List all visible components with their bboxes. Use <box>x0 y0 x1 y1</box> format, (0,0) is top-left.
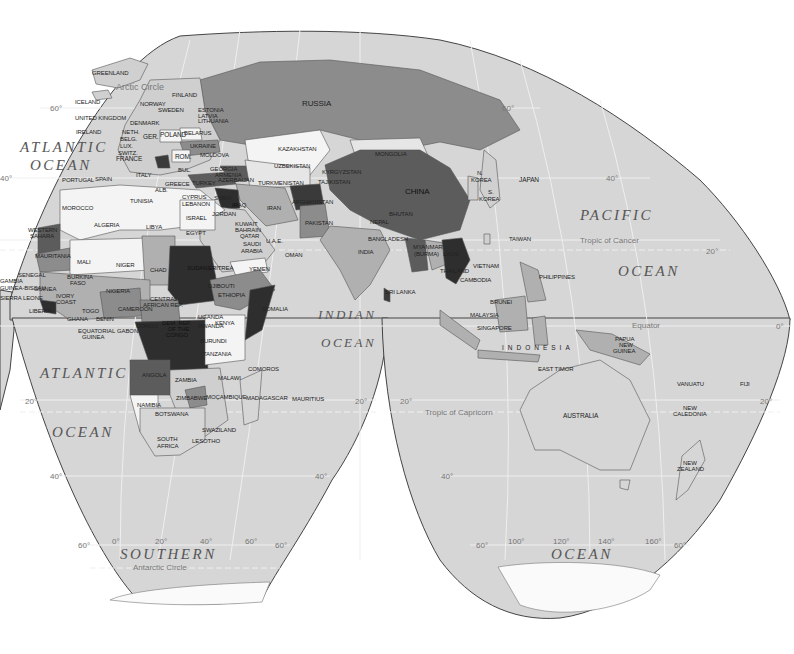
country-label: BELARUS <box>184 130 211 136</box>
country-label: LUX. <box>120 143 133 149</box>
country-label: GABON <box>117 328 138 334</box>
country-label: ANGOLA <box>142 372 166 378</box>
country-label: SWEDEN <box>158 107 184 113</box>
lat-label: 40° <box>606 174 618 183</box>
ocean-label-pacific-2: OCEAN <box>618 263 680 280</box>
country-label: INDIA <box>358 249 374 255</box>
country-label: MAURITIUS <box>292 396 324 402</box>
serbia <box>155 155 170 168</box>
country-label: BANGLADESH <box>368 236 408 242</box>
country-label: BENIN <box>96 316 114 322</box>
country-label: TANZANIA <box>203 351 231 357</box>
country-label: SYRIA <box>214 195 232 201</box>
arctic-circle-label: Arctic Circle <box>116 82 164 92</box>
country-label: TURKMENISTAN <box>258 180 304 186</box>
country-label: POLAND <box>160 132 186 138</box>
country-label: AFRICA <box>157 443 178 449</box>
ocean-label-atlantic-south-1: ATLANTIC <box>40 365 128 382</box>
country-label: FINLAND <box>172 92 197 98</box>
taiwan <box>484 234 490 244</box>
country-label: NETH. <box>122 129 140 135</box>
country-label: GUINEA <box>613 348 635 354</box>
country-label: JAPAN <box>519 177 539 183</box>
country-label: KAZAKHSTAN <box>278 146 317 152</box>
country-label: THAILAND <box>440 268 469 274</box>
country-label: ALGERIA <box>94 222 119 228</box>
country-label: KYRGYZSTAN <box>322 169 361 175</box>
country-label: LEBANON <box>182 201 210 207</box>
antarctica-east <box>498 562 660 612</box>
country-label: SINGAPORE <box>477 325 512 331</box>
country-label: EAST TIMOR <box>538 366 573 372</box>
country-label: VANUATU <box>677 381 704 387</box>
lat-label: 40° <box>0 174 12 183</box>
country-label: S. <box>488 189 493 195</box>
country-label: AUSTRALIA <box>563 413 598 419</box>
country-label: NIGER <box>116 262 135 268</box>
lat-label: 60° <box>78 541 90 550</box>
country-label: TURKEY <box>192 180 216 186</box>
ocean-label-southern-2: OCEAN <box>551 546 613 563</box>
country-label: GUINEA <box>34 286 56 292</box>
country-label: BRUNEI <box>490 299 512 305</box>
country-label: SOMALIA <box>262 306 288 312</box>
lat-label: 20° <box>355 397 367 406</box>
country-label: SRI LANKA <box>385 289 415 295</box>
country-label: PAKISTAN <box>305 220 333 226</box>
country-label: COAST <box>56 299 76 305</box>
country-label: TOGO <box>82 308 99 314</box>
country-label: IRAQ <box>232 202 246 208</box>
lat-label: 60° <box>674 541 686 550</box>
country-label: CONGO <box>136 323 158 329</box>
country-label: UNITED KINGDOM <box>75 115 126 121</box>
country-label: SPAIN <box>95 176 112 182</box>
country-label: ROM. <box>175 154 192 160</box>
sulawesi <box>532 316 548 345</box>
country-label: INDONESIA <box>502 345 574 351</box>
country-label: MADAGASCAR <box>246 395 288 401</box>
country-label: MOÇAMBIQUE <box>206 394 247 400</box>
country-label: RUSSIA <box>302 101 331 107</box>
tropic-capricorn-label: Tropic of Capricorn <box>425 408 493 417</box>
country-label: CYPRUS <box>182 194 206 200</box>
ocean-label-indian-2: OCEAN <box>321 335 376 351</box>
country-label: NAMIBIA <box>137 402 161 408</box>
country-label: N. <box>477 170 483 176</box>
country-label: BELG. <box>120 136 137 142</box>
country-label: GER. <box>143 134 159 140</box>
equator-label: Equator <box>632 321 660 330</box>
country-label: KOREA <box>479 196 500 202</box>
lon-label: 0° <box>112 537 120 546</box>
country-label: GREECE <box>165 181 190 187</box>
country-label: BOTSWANA <box>155 411 188 417</box>
lon-label: 100° <box>508 537 525 546</box>
country-label: BHUTAN <box>389 211 413 217</box>
country-label: FRANCE <box>116 156 142 162</box>
lat-label: 40° <box>441 472 453 481</box>
country-label: ZIMBABWE <box>176 395 207 401</box>
ocean-label-atlantic-north-2: OCEAN <box>30 157 92 174</box>
lat-label: 20° <box>400 397 412 406</box>
country-label: SIERRA LEONE <box>0 295 43 301</box>
country-label: AZERBAIJAN <box>218 177 254 183</box>
country-label: ICELAND <box>75 99 100 105</box>
ocean-label-atlantic-north-1: ATLANTIC <box>20 139 108 156</box>
country-label: ISRAEL <box>186 215 207 221</box>
country-label: UZBEKISTAN <box>274 163 310 169</box>
country-label: MALAWI <box>218 375 241 381</box>
country-label: TAJIKISTAN <box>318 179 350 185</box>
country-label: GREENLAND <box>92 70 128 76</box>
lon-label: 160° <box>645 537 662 546</box>
country-label: CONGO <box>166 332 188 338</box>
country-label: OMAN <box>285 252 303 258</box>
country-label: FIJI <box>740 381 750 387</box>
country-label: PHILIPPINES <box>539 274 575 280</box>
country-label: IRELAND <box>76 129 101 135</box>
country-label: CALEDONIA <box>673 411 707 417</box>
country-label: DJIBOUTI <box>208 283 235 289</box>
country-label: MAURITANIA <box>35 253 71 259</box>
country-label: VIETNAM <box>473 263 499 269</box>
lat-label: 0° <box>776 322 784 331</box>
ocean-label-indian-1: INDIAN <box>318 307 376 323</box>
antarctic-circle-label: Antarctic Circle <box>133 563 187 572</box>
